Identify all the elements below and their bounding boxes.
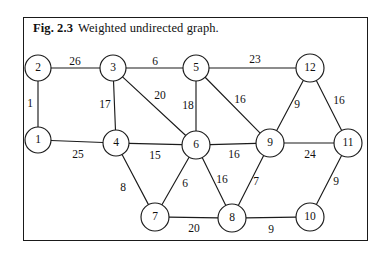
- node-label: 4: [113, 136, 119, 148]
- graph-node: 10: [296, 203, 324, 231]
- graph-node: 4: [103, 130, 129, 156]
- node-label: 8: [229, 211, 235, 223]
- graph-edge: [210, 143, 256, 144]
- graph-node: 6: [182, 131, 210, 159]
- node-label: 5: [193, 61, 199, 73]
- node-label: 10: [304, 210, 316, 222]
- edge-weight-label: 16: [333, 94, 345, 106]
- edge-weight-label: 17: [99, 98, 111, 110]
- graph-edge: [169, 217, 218, 218]
- graph-node: 11: [334, 129, 362, 157]
- node-label: 1: [35, 133, 41, 145]
- edge-weight-label: 7: [253, 175, 259, 187]
- graph-node: 2: [25, 55, 51, 81]
- edge-weight-label: 9: [333, 175, 339, 187]
- edge-weight-label: 20: [188, 222, 200, 234]
- edge-weight-label: 1: [27, 97, 33, 109]
- graph-edge: [122, 155, 148, 205]
- graph-edge: [238, 155, 263, 205]
- graph-edge: [114, 81, 116, 130]
- graph-node: 8: [218, 204, 246, 232]
- edge-weight-label: 26: [69, 55, 81, 67]
- graph-node: 5: [183, 55, 209, 81]
- edge-weight-label: 18: [182, 99, 194, 111]
- graph-edge: [123, 77, 186, 136]
- edge-weight-label: 8: [120, 181, 126, 193]
- edge-weight-label: 16: [228, 148, 240, 160]
- edge-weight-label: 24: [304, 148, 316, 160]
- edge-weight-label: 9: [268, 223, 274, 235]
- graph-node: 12: [296, 54, 324, 82]
- node-label: 7: [152, 210, 158, 222]
- graph-canvas: 2616231720181691625151624861679209 12345…: [0, 0, 390, 253]
- graph-node: 7: [141, 203, 169, 231]
- edge-weight-label: 16: [234, 93, 246, 105]
- node-label: 9: [267, 136, 273, 148]
- edge-weight-label: 6: [182, 177, 188, 189]
- edge-weight-label: 25: [72, 148, 84, 160]
- node-label: 12: [304, 61, 316, 73]
- graph-edge: [246, 217, 296, 218]
- edge-weight-label: 9: [294, 98, 300, 110]
- node-label: 11: [342, 136, 353, 148]
- graph-edge: [205, 77, 260, 133]
- graph-node: 9: [256, 129, 284, 157]
- edge-weight-label: 15: [149, 149, 161, 161]
- figure-container: Fig. 2.3Weighted undirected graph. 26162…: [0, 0, 390, 253]
- node-label: 2: [35, 61, 41, 73]
- graph-edge: [129, 143, 182, 144]
- node-label: 3: [110, 61, 116, 73]
- graph-edge: [51, 141, 103, 143]
- edge-weight-label: 16: [216, 173, 228, 185]
- graph-node: 3: [100, 55, 126, 81]
- edge-weight-label: 6: [152, 55, 158, 67]
- node-label: 6: [193, 138, 199, 150]
- edge-weight-label: 20: [154, 89, 166, 101]
- edge-weight-label: 23: [249, 53, 261, 65]
- graph-node: 1: [25, 127, 51, 153]
